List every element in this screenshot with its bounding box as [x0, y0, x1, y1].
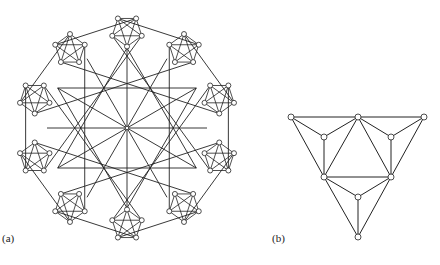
node [172, 191, 177, 196]
edge [61, 194, 70, 222]
edge [358, 117, 391, 177]
edge [58, 48, 127, 168]
node [139, 33, 144, 38]
edge [210, 85, 234, 102]
node [167, 42, 172, 47]
node [231, 100, 236, 105]
node [321, 134, 327, 140]
node [231, 151, 236, 156]
edge [26, 85, 35, 113]
node [226, 83, 231, 88]
node [288, 114, 294, 120]
edge [324, 117, 358, 177]
edge [61, 194, 85, 211]
node [32, 140, 37, 145]
node [18, 100, 23, 105]
node [217, 111, 222, 116]
node [355, 194, 361, 200]
node [202, 100, 207, 105]
node [23, 168, 28, 173]
edge [184, 153, 234, 222]
node [355, 114, 361, 120]
node [67, 32, 72, 37]
node [67, 219, 72, 224]
edge [184, 34, 193, 62]
node [125, 44, 130, 49]
node [196, 42, 201, 47]
edge [210, 85, 219, 113]
edge [127, 48, 196, 168]
edge [219, 142, 228, 170]
node [125, 126, 129, 130]
edge [118, 18, 142, 35]
node [167, 209, 172, 214]
edge [58, 88, 127, 208]
node [388, 174, 394, 180]
edge [127, 88, 196, 208]
node [134, 235, 139, 240]
node [53, 42, 58, 47]
edge [169, 194, 193, 211]
node [77, 191, 82, 196]
node [77, 60, 82, 65]
edge [127, 128, 167, 197]
node [182, 32, 187, 37]
edge [35, 85, 44, 113]
edge [118, 18, 199, 44]
node [115, 16, 120, 21]
graph-figure [0, 0, 440, 265]
edge [112, 220, 136, 237]
edge [87, 59, 127, 128]
node [172, 60, 177, 65]
node [202, 151, 207, 156]
node [321, 174, 327, 180]
edge [55, 45, 79, 62]
edge [219, 85, 228, 113]
edge [291, 117, 324, 177]
edge [87, 128, 127, 197]
edge [210, 142, 219, 170]
node [125, 207, 130, 212]
edge [175, 194, 199, 211]
node [47, 151, 52, 156]
node [182, 219, 187, 224]
edge [391, 117, 424, 177]
edge [20, 34, 70, 103]
node [32, 111, 37, 116]
panel-b-label: (b) [272, 232, 285, 244]
edge [324, 177, 358, 237]
node [82, 209, 87, 214]
node [53, 209, 58, 214]
node [196, 209, 201, 214]
edge [55, 211, 136, 237]
node [58, 191, 63, 196]
node [208, 83, 213, 88]
node [110, 218, 115, 223]
edge [184, 34, 234, 103]
edge [61, 34, 70, 62]
node [23, 83, 28, 88]
node [139, 218, 144, 223]
edge [55, 18, 136, 44]
node [388, 134, 394, 140]
edge [210, 153, 234, 170]
node [110, 33, 115, 38]
node [208, 168, 213, 173]
edge [169, 45, 193, 62]
edge [20, 85, 44, 102]
edge [184, 194, 193, 222]
edges [20, 18, 424, 237]
edge [358, 177, 391, 237]
node [18, 151, 23, 156]
edge [127, 59, 167, 128]
edge [55, 194, 79, 211]
node [226, 168, 231, 173]
edge [20, 153, 44, 170]
node [47, 100, 52, 105]
node [115, 235, 120, 240]
edge [61, 45, 85, 62]
node [58, 60, 63, 65]
node [217, 140, 222, 145]
node [421, 114, 427, 120]
edge [26, 142, 35, 170]
